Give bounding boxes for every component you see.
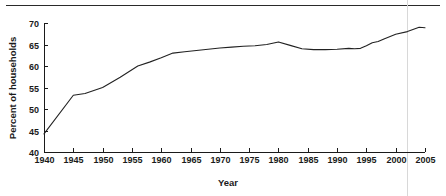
y-tick-label: 50 [29,105,39,115]
y-axis-title: Percent of households [7,37,18,139]
x-axis-title: Year [218,177,238,188]
y-axis: 40455055606570 [29,19,48,158]
x-tick-label: 1990 [327,155,347,165]
data-line-percent-of-households [44,27,425,134]
x-tick-label: 2000 [386,155,406,165]
x-tick-label: 1985 [298,155,318,165]
x-tick-label: 1965 [181,155,201,165]
data-series-group [44,27,425,134]
line-chart: 40455055606570 1940194519501955196019651… [0,0,446,196]
y-tick-label: 55 [29,84,39,94]
x-tick-label: 1960 [151,155,171,165]
x-tick-marks [45,148,426,152]
x-tick-label: 1995 [356,155,376,165]
x-tick-labels: 1940194519501955196019651970197519801985… [34,155,435,165]
x-tick-label: 1980 [268,155,288,165]
x-tick-label: 1955 [122,155,142,165]
x-tick-label: 1950 [93,155,113,165]
y-tick-label: 60 [29,62,39,72]
y-tick-label: 65 [29,41,39,51]
x-axis: 1940194519501955196019651970197519801985… [34,148,435,165]
x-tick-label: 1970 [210,155,230,165]
x-tick-label: 2005 [415,155,435,165]
x-tick-label: 1940 [34,155,54,165]
y-tick-labels: 40455055606570 [29,19,39,158]
x-tick-label: 1975 [239,155,259,165]
y-tick-label: 70 [29,19,39,29]
y-tick-label: 45 [29,127,39,137]
x-tick-label: 1945 [63,155,83,165]
chart-figure: 40455055606570 1940194519501955196019651… [0,0,446,196]
